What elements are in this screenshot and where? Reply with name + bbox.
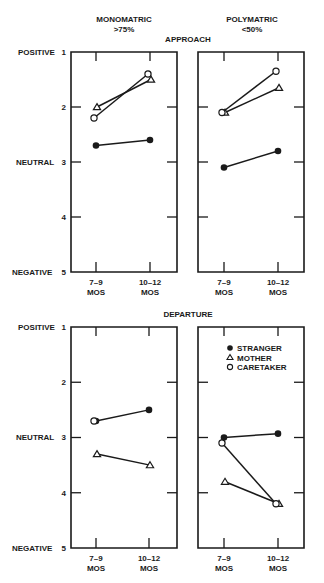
point-mother-7-9 [93, 104, 100, 110]
series-line-stranger [224, 151, 278, 168]
x-tick-label-10-12: 10–12 [138, 554, 161, 563]
x-tick-label-7-9: 7–9 [89, 554, 103, 563]
x-tick-label-mos: MOS [141, 288, 160, 297]
y-tick-label-5-top: 5 [62, 268, 67, 277]
x-tick-label-10-12: 10–12 [267, 554, 290, 563]
section-title-approach: APPROACH [165, 35, 211, 44]
y-tick-label-2-bottom: 2 [62, 378, 67, 387]
plot-frame [71, 327, 177, 548]
x-tick-label-7-9: 7–9 [217, 554, 231, 563]
legend-label-stranger: STRANGER [237, 344, 282, 353]
point-caretaker-7-9 [91, 115, 97, 121]
series-line-caretaker [222, 443, 276, 504]
y-word-positive-top: POSITIVE [18, 48, 56, 57]
y-word-positive-bottom: POSITIVE [18, 323, 56, 332]
x-tick-label-7-9: 7–9 [217, 278, 231, 287]
group-subtitle-polymatric: <50% [242, 25, 263, 34]
x-tick-label-mos: MOS [269, 288, 288, 297]
x-tick-label-mos: MOS [215, 288, 234, 297]
series-line-stranger [96, 410, 149, 421]
legend: STRANGER MOTHER CARETAKER [227, 344, 287, 372]
group-title-polymatric: POLYMATRIC [226, 15, 278, 24]
x-tick-label-mos: MOS [140, 564, 159, 573]
y-tick-label-5-bottom: 5 [62, 544, 67, 553]
series-line-stranger [96, 140, 150, 146]
x-tick-label-10-12: 10–12 [267, 278, 290, 287]
series-line-mother [225, 482, 279, 504]
y-tick-label-2-top: 2 [62, 103, 67, 112]
point-stranger-10-12 [147, 137, 154, 144]
y-tick-label-3-top: 3 [62, 158, 67, 167]
x-tick-label-mos: MOS [87, 564, 106, 573]
y-tick-label-4-top: 4 [62, 213, 67, 222]
section-title-departure: DEPARTURE [163, 310, 213, 319]
point-stranger-10-12 [275, 430, 282, 437]
point-mother-7-9 [221, 478, 228, 484]
y-tick-label-4-bottom: 4 [62, 489, 67, 498]
y-word-neutral-top: NEUTRAL [16, 158, 54, 167]
x-tick-label-7-9: 7–9 [89, 278, 103, 287]
y-tick-label-1-top: 1 [62, 48, 67, 57]
series-line-mother [225, 88, 279, 113]
legend-label-caretaker: CARETAKER [237, 363, 287, 372]
series-line-caretaker [94, 74, 148, 118]
plot-frame [198, 52, 304, 272]
point-caretaker-10-12 [273, 501, 279, 507]
x-tick-label-10-12: 10–12 [139, 278, 162, 287]
point-stranger-10-12 [146, 407, 153, 414]
point-caretaker-7-9 [219, 109, 225, 115]
legend-label-mother: MOTHER [237, 354, 272, 363]
y-word-negative-bottom: NEGATIVE [12, 544, 53, 553]
point-caretaker-7-9 [219, 440, 225, 446]
group-title-monomatric: MONOMATRIC [96, 15, 152, 24]
series-line-stranger [224, 434, 278, 438]
y-tick-label-1-bottom: 1 [62, 323, 67, 332]
legend-marker-stranger [227, 345, 233, 351]
panel-approach-polymatric [198, 52, 304, 272]
y-tick-label-3-bottom: 3 [62, 433, 67, 442]
x-tick-label-mos: MOS [215, 564, 234, 573]
point-caretaker-10-12 [273, 68, 279, 74]
legend-marker-caretaker [227, 364, 232, 369]
x-tick-label-mos: MOS [87, 288, 106, 297]
series-line-mother [97, 454, 150, 465]
point-mother-10-12 [275, 84, 282, 90]
x-tick-label-mos: MOS [269, 564, 288, 573]
series-line-caretaker [222, 71, 276, 112]
point-caretaker-7-9 [91, 418, 97, 424]
point-mother-7-9 [93, 451, 100, 457]
y-word-neutral-bottom: NEUTRAL [16, 433, 54, 442]
point-stranger-7-9 [221, 164, 228, 171]
legend-marker-mother [227, 355, 233, 360]
panel-approach-monomatric [71, 52, 177, 272]
plot-frame [71, 52, 177, 272]
group-subtitle-monomatric: >75% [114, 25, 135, 34]
figure: MONOMATRIC >75% POLYMATRIC <50% APPROACH… [0, 0, 324, 583]
point-stranger-10-12 [275, 148, 282, 155]
point-caretaker-10-12 [145, 71, 151, 77]
point-stranger-7-9 [93, 142, 100, 149]
panel-departure-monomatric [71, 327, 177, 548]
y-word-negative-top: NEGATIVE [12, 268, 53, 277]
